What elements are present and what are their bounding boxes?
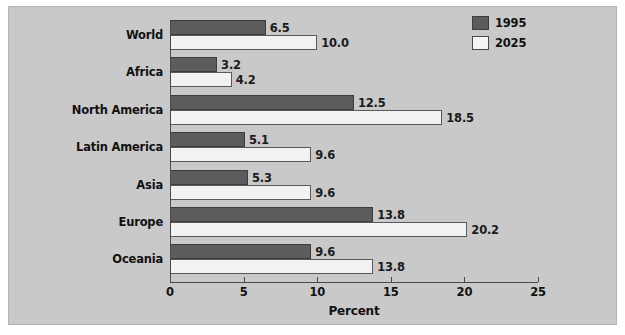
bar-1995-world bbox=[170, 20, 266, 35]
bar-value-1995-europe: 13.8 bbox=[377, 208, 405, 222]
bar-value-1995-oceania: 9.6 bbox=[315, 245, 335, 259]
category-label-world: World bbox=[9, 29, 163, 42]
bar-value-1995-world: 6.5 bbox=[270, 21, 290, 35]
x-axis-title: Percent bbox=[170, 304, 538, 318]
white-swatch bbox=[472, 36, 489, 50]
legend-label-2025: 2025 bbox=[495, 36, 526, 50]
bar-2025-asia bbox=[170, 185, 311, 200]
bar-value-1995-north-america: 12.5 bbox=[358, 96, 386, 110]
bar-2025-oceania bbox=[170, 259, 373, 274]
y-axis-line bbox=[170, 20, 171, 282]
category-label-north-america: North America bbox=[9, 104, 163, 117]
x-tick-label-15: 15 bbox=[371, 286, 411, 299]
bar-2025-europe bbox=[170, 222, 467, 237]
x-tick-10 bbox=[317, 277, 318, 282]
bar-value-1995-asia: 5.3 bbox=[252, 171, 272, 185]
bar-value-2025-asia: 9.6 bbox=[315, 186, 335, 200]
x-tick-15 bbox=[391, 277, 392, 282]
bar-value-1995-africa: 3.2 bbox=[221, 58, 241, 72]
bar-2025-latin-america bbox=[170, 147, 311, 162]
dark-gray-swatch bbox=[472, 16, 489, 30]
bar-1995-europe bbox=[170, 207, 373, 222]
bar-1995-north-america bbox=[170, 95, 354, 110]
chart-legend: 19952025 bbox=[472, 16, 582, 58]
bar-value-2025-world: 10.0 bbox=[321, 36, 349, 50]
bar-value-2025-africa: 4.2 bbox=[236, 73, 256, 87]
category-label-asia: Asia bbox=[9, 179, 163, 192]
bar-value-1995-latin-america: 5.1 bbox=[249, 133, 269, 147]
x-tick-20 bbox=[464, 277, 465, 282]
legend-label-1995: 1995 bbox=[495, 16, 526, 30]
category-label-oceania: Oceania bbox=[9, 253, 163, 266]
x-tick-label-0: 0 bbox=[150, 286, 190, 299]
category-label-latin-america: Latin America bbox=[9, 141, 163, 154]
x-tick-label-10: 10 bbox=[297, 286, 337, 299]
bar-2025-africa bbox=[170, 72, 232, 87]
bar-1995-latin-america bbox=[170, 132, 245, 147]
bar-2025-world bbox=[170, 35, 317, 50]
x-tick-0 bbox=[170, 277, 171, 282]
bar-value-2025-north-america: 18.5 bbox=[446, 111, 474, 125]
bar-value-2025-europe: 20.2 bbox=[471, 223, 499, 237]
x-tick-5 bbox=[244, 277, 245, 282]
x-tick-25 bbox=[538, 277, 539, 282]
x-tick-label-5: 5 bbox=[224, 286, 264, 299]
bar-1995-africa bbox=[170, 57, 217, 72]
bar-2025-north-america bbox=[170, 110, 442, 125]
x-tick-label-25: 25 bbox=[518, 286, 558, 299]
bar-1995-oceania bbox=[170, 244, 311, 259]
bar-chart: 6.510.0World3.24.2Africa12.518.5North Am… bbox=[0, 0, 625, 335]
x-tick-label-20: 20 bbox=[444, 286, 484, 299]
bar-value-2025-latin-america: 9.6 bbox=[315, 148, 335, 162]
category-label-europe: Europe bbox=[9, 216, 163, 229]
bar-1995-asia bbox=[170, 170, 248, 185]
x-axis-line bbox=[170, 282, 538, 283]
chart-panel: 6.510.0World3.24.2Africa12.518.5North Am… bbox=[8, 6, 617, 325]
category-label-africa: Africa bbox=[9, 66, 163, 79]
bar-value-2025-oceania: 13.8 bbox=[377, 260, 405, 274]
